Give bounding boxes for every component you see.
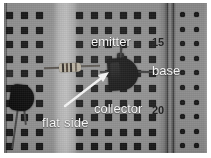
photo-inner-frame: emitter base collector flat side 15 20 <box>4 3 207 153</box>
board-separator-line-b <box>173 3 174 153</box>
breadboard-surface <box>4 3 207 153</box>
label-emitter: emitter <box>91 35 131 48</box>
board-row-marking-20: 20 <box>152 105 164 116</box>
resistor-color-band <box>70 63 73 72</box>
resistor-color-band <box>62 63 65 72</box>
board-row-marking-15: 15 <box>152 37 164 48</box>
board-separator-line-a <box>167 3 168 153</box>
resistor-color-band <box>75 63 78 72</box>
resistor-color-band <box>66 63 69 72</box>
label-flat-side: flat side <box>42 116 89 129</box>
resistor-body <box>59 63 81 73</box>
breadboard-photo: emitter base collector flat side 15 20 <box>0 0 211 158</box>
label-base: base <box>152 64 180 77</box>
board-edge-line-left <box>6 3 7 153</box>
label-collector: collector <box>94 102 142 115</box>
